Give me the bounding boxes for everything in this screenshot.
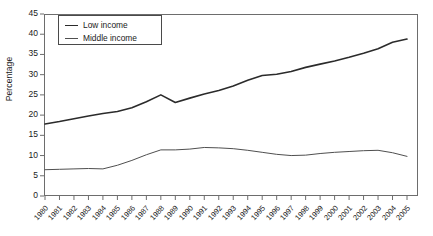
chart-legend: Low income Middle income <box>58 15 162 45</box>
y-axis-ticks <box>40 14 44 196</box>
legend-label: Low income <box>83 21 128 29</box>
chart-container: 051015202530354045 198019811982198319841… <box>0 0 433 236</box>
legend-label: Middle income <box>83 34 137 42</box>
series-line <box>45 39 407 124</box>
legend-line-swatch-icon <box>65 38 78 39</box>
x-axis-ticks <box>45 196 407 200</box>
legend-line-swatch-icon <box>65 25 78 26</box>
legend-item-middle-income: Middle income <box>65 32 161 44</box>
series-line <box>45 147 407 169</box>
series-lines <box>45 39 407 170</box>
legend-item-low-income: Low income <box>65 19 161 31</box>
y-axis-title: Percentage <box>4 44 14 114</box>
